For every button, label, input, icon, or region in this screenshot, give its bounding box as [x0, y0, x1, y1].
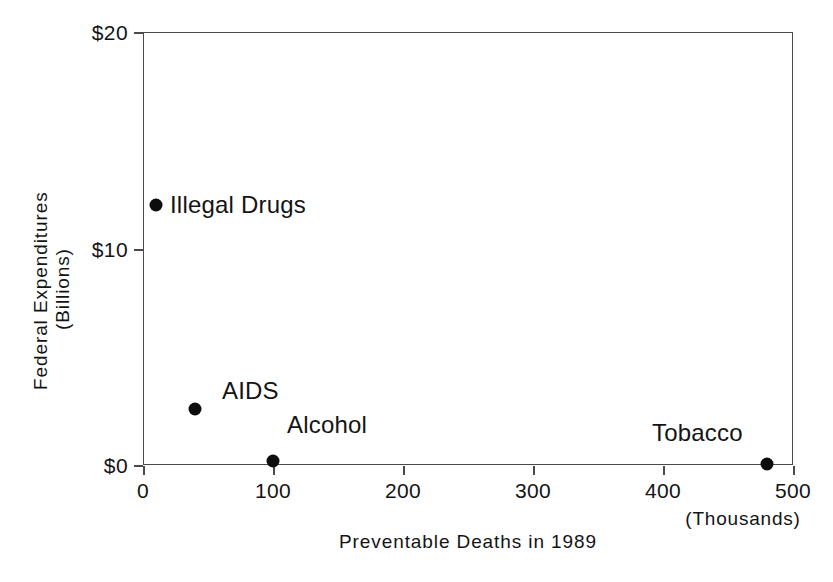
x-tick-200 — [403, 466, 405, 475]
x-tick-label-200: 200 — [385, 479, 421, 503]
x-tick-0 — [143, 466, 145, 475]
y-tick-label-0: $0 — [104, 454, 128, 478]
point-label-alcohol: Alcohol — [287, 411, 367, 439]
y-axis-title-block: Federal Expenditures (Billions) — [0, 0, 60, 500]
x-axis-units: (Thousands) — [663, 508, 823, 530]
datapoint-tobacco[interactable] — [761, 457, 774, 470]
x-tick-300 — [533, 466, 535, 475]
x-tick-label-300: 300 — [515, 479, 551, 503]
y-axis-title: Federal Expenditures — [30, 191, 52, 390]
x-tick-label-0: 0 — [137, 479, 149, 503]
point-label-aids: AIDS — [222, 377, 279, 405]
y-axis-units: (Billions) — [52, 248, 74, 330]
y-tick-20 — [134, 32, 143, 34]
datapoint-illegal-drugs[interactable] — [150, 199, 163, 212]
x-tick-label-100: 100 — [255, 479, 291, 503]
y-tick-label-10: $10 — [92, 238, 128, 262]
x-axis-title: Preventable Deaths in 1989 — [143, 531, 793, 553]
x-tick-500 — [793, 466, 795, 475]
datapoint-alcohol[interactable] — [267, 454, 280, 467]
point-label-illegal-drugs: Illegal Drugs — [170, 191, 306, 219]
x-tick-label-400: 400 — [645, 479, 681, 503]
x-tick-label-500: 500 — [775, 479, 811, 503]
point-label-tobacco: Tobacco — [652, 419, 743, 447]
y-tick-0 — [134, 465, 143, 467]
y-tick-10 — [134, 249, 143, 251]
x-tick-400 — [663, 466, 665, 475]
scatter-chart-figure: $20 $10 $0 0 100 200 300 400 500 Illegal… — [0, 0, 833, 582]
datapoint-aids[interactable] — [189, 402, 202, 415]
x-tick-100 — [273, 466, 275, 475]
y-tick-label-20: $20 — [92, 21, 128, 45]
clipped-title-remnant — [560, 0, 833, 2]
